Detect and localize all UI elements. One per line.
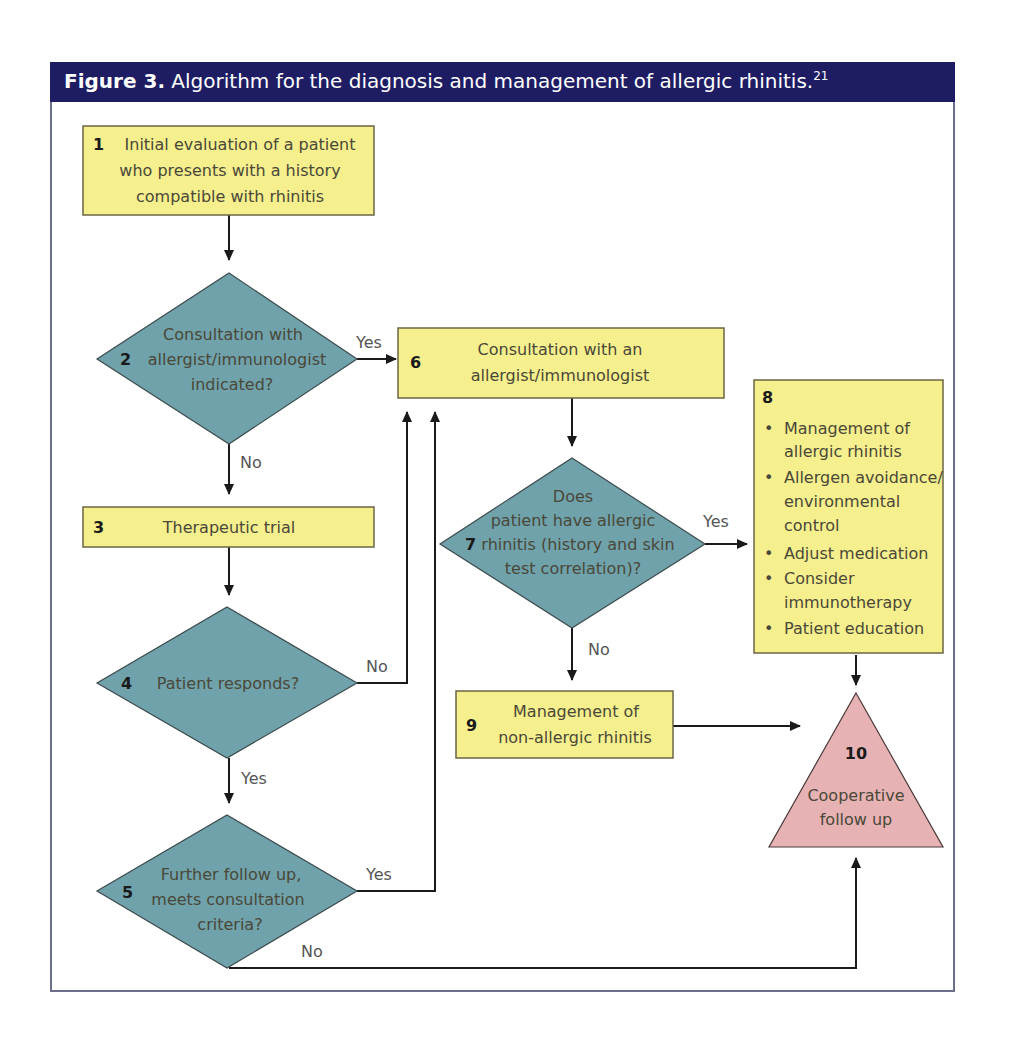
svg-text:•: • — [764, 569, 773, 588]
svg-text:Therapeutic trial: Therapeutic trial — [162, 518, 295, 537]
node-8-number: 8 — [762, 388, 773, 407]
edge-label-2-no: No — [240, 453, 262, 472]
svg-text:who presents with a history: who presents with a history — [119, 161, 340, 180]
node-3-therapeutic-trial: 3 Therapeutic trial — [83, 507, 374, 547]
svg-text:non-allergic rhinitis: non-allergic rhinitis — [498, 728, 652, 747]
node-9-number: 9 — [466, 716, 477, 735]
node-6-consultation-allergist: 6 Consultation with an allergist/immunol… — [398, 328, 724, 398]
svg-text:Management of: Management of — [784, 419, 910, 438]
svg-text:patient have allergic: patient have allergic — [491, 511, 656, 530]
svg-text:control: control — [784, 516, 839, 535]
svg-text:Initial evaluation of a patien: Initial evaluation of a patient — [125, 135, 356, 154]
edge-5-to-6 — [357, 412, 435, 891]
svg-text:Allergen avoidance/: Allergen avoidance/ — [784, 468, 943, 487]
node-3-number: 3 — [93, 518, 104, 537]
node-7-allergic-rhinitis-check: 7 Does patient have allergic rhinitis (h… — [440, 458, 705, 628]
node-1-initial-evaluation: 1 Initial evaluation of a patient who pr… — [83, 126, 374, 215]
svg-text:Adjust medication: Adjust medication — [784, 544, 928, 563]
svg-text:Patient education: Patient education — [784, 619, 924, 638]
node-2-number: 2 — [120, 350, 131, 369]
svg-text:Management of: Management of — [513, 702, 639, 721]
svg-text:criteria?: criteria? — [197, 915, 262, 934]
edge-label-5-no: No — [301, 942, 323, 961]
edge-label-4-yes: Yes — [240, 769, 267, 788]
svg-text:meets consultation: meets consultation — [151, 890, 304, 909]
svg-text:environmental: environmental — [784, 492, 900, 511]
svg-text:allergist/immunologist: allergist/immunologist — [471, 366, 650, 385]
flowchart: Yes No No Yes Yes No Yes No 1 Initial e — [0, 0, 1019, 1058]
svg-text:allergist/immunologist: allergist/immunologist — [148, 350, 327, 369]
node-2-consultation-indicated: 2 Consultation with allergist/immunologi… — [97, 273, 357, 444]
node-1-number: 1 — [93, 135, 104, 154]
node-7-number: 7 — [465, 535, 476, 554]
svg-text:indicated?: indicated? — [191, 375, 274, 394]
edge-label-4-no: No — [366, 657, 388, 676]
svg-text:rhinitis (history and skin: rhinitis (history and skin — [481, 535, 674, 554]
svg-text:•: • — [764, 544, 773, 563]
svg-text:Further follow up,: Further follow up, — [161, 865, 302, 884]
svg-text:Consider: Consider — [784, 569, 855, 588]
svg-text:•: • — [764, 619, 773, 638]
node-9-management-non-allergic: 9 Management of non-allergic rhinitis — [456, 691, 673, 758]
svg-text:•: • — [764, 468, 773, 487]
node-5-number: 5 — [122, 883, 133, 902]
edge-label-7-yes: Yes — [702, 512, 729, 531]
svg-text:Patient responds?: Patient responds? — [157, 674, 299, 693]
svg-text:immunotherapy: immunotherapy — [784, 593, 912, 612]
node-10-cooperative-follow-up: 10 Cooperative follow up — [769, 693, 943, 847]
node-4-number: 4 — [121, 674, 132, 693]
svg-text:Does: Does — [553, 487, 593, 506]
svg-text:follow up: follow up — [820, 810, 893, 829]
node-10-number: 10 — [845, 744, 867, 763]
svg-text:allergic rhinitis: allergic rhinitis — [784, 442, 902, 461]
svg-text:Consultation with: Consultation with — [163, 325, 303, 344]
svg-text:test correlation)?: test correlation)? — [505, 559, 641, 578]
edge-label-7-no: No — [588, 640, 610, 659]
node-6-number: 6 — [410, 353, 421, 372]
edge-label-2-yes: Yes — [355, 333, 382, 352]
svg-text:Consultation with an: Consultation with an — [478, 340, 643, 359]
svg-text:•: • — [764, 419, 773, 438]
node-8-management-allergic: 8 • Management of allergic rhinitis • Al… — [754, 380, 943, 653]
node-4-patient-responds: 4 Patient responds? — [97, 607, 357, 758]
svg-text:compatible with rhinitis: compatible with rhinitis — [136, 187, 324, 206]
edge-label-5-yes: Yes — [365, 865, 392, 884]
svg-text:Cooperative: Cooperative — [807, 786, 904, 805]
